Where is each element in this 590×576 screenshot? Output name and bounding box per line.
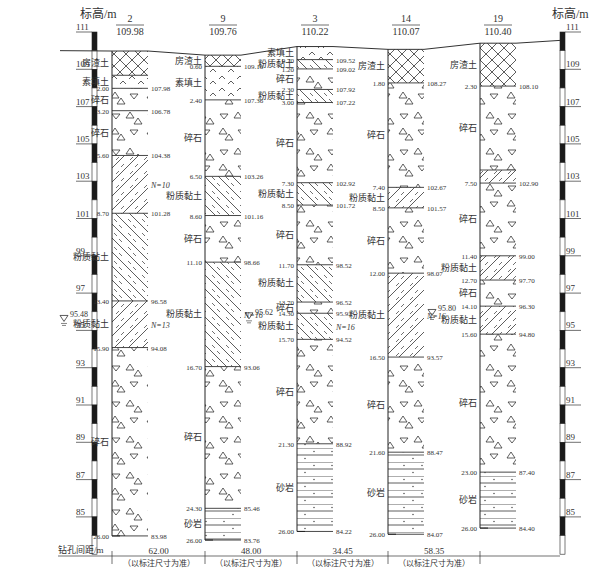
depth-label: 0.60	[190, 63, 203, 71]
layer-name: 粉质黏土	[258, 188, 294, 199]
elevation-scale-right: 标高/m1111091071051031019997959391898785	[552, 6, 589, 554]
tick-label: 105	[76, 134, 90, 144]
layer-silt-back	[205, 262, 241, 366]
depth-label: 2.40	[190, 97, 203, 105]
scale-segment-light	[560, 386, 565, 405]
tick-label: 111	[566, 22, 579, 32]
depth-label: 26.00	[369, 531, 385, 539]
depth-label: 15.90	[93, 345, 109, 353]
depth-label: 24.30	[186, 505, 202, 513]
spacing-value: 48.00	[241, 546, 262, 556]
scale-segment-light	[92, 386, 97, 405]
axis-title: 标高/m	[80, 6, 117, 21]
layer-gravel	[297, 302, 333, 313]
depth-label: 8.50	[373, 205, 386, 213]
elevation-label: 84.07	[427, 531, 443, 539]
borehole-id: 3	[313, 13, 318, 24]
layer-fill	[112, 75, 148, 88]
layer-name: 碎石	[184, 132, 202, 143]
spacing-value: 58.35	[424, 546, 445, 556]
depth-label: 1.20	[282, 66, 295, 74]
layer-silt-fwd	[480, 306, 516, 334]
borehole-id: 2	[128, 13, 133, 24]
elevation-label: 83.76	[244, 537, 260, 545]
elevation-label: 98.52	[336, 262, 352, 270]
tick-label: 105	[566, 134, 580, 144]
layer-gravel	[205, 367, 241, 509]
spacing-value: 34.45	[332, 546, 353, 556]
tick-label: 103	[566, 171, 580, 181]
elevation-label: 109.02	[336, 66, 356, 74]
tick-label: 91	[76, 395, 85, 405]
elevation-label: 85.46	[244, 505, 260, 513]
elevation-label: 107.22	[336, 99, 356, 107]
spacing-note: （以标注尺寸为准）	[215, 558, 287, 568]
elevation-label: 96.52	[336, 299, 352, 307]
layer-name: 碎石	[91, 127, 109, 138]
layer-name: 碎石	[276, 73, 294, 84]
borehole-9: 9109.76房渣土0.60109.16素填土2.40107.36碎石6.501…	[166, 13, 273, 545]
layer-gravel	[112, 111, 148, 156]
elevation-label: 84.40	[519, 525, 535, 533]
depth-label: 26.00	[93, 533, 109, 541]
spacing-value: 62.00	[148, 546, 169, 556]
elevation-label: 107.98	[151, 85, 171, 93]
depth-label: 26.00	[278, 528, 294, 536]
spacing-label: 钻孔间距/m	[58, 544, 104, 555]
scale-segment-dark	[92, 219, 97, 238]
section-canvas: 标高/m1111091071051031019997959391898785 标…	[0, 0, 590, 576]
layer-name: 碎石	[459, 397, 477, 408]
layer-crosshatch	[388, 49, 424, 83]
layer-name: 碎石	[276, 137, 294, 148]
scale-segment-light	[92, 163, 97, 182]
depth-label: 8.70	[97, 210, 110, 218]
elevation-label: 101.57	[427, 205, 447, 213]
depth-label: 2.30	[465, 83, 478, 91]
water-level-label: 95.48	[70, 310, 88, 319]
boreholes: 2109.98房渣土素填土2.00107.98碎石3.20106.78碎石5.6…	[60, 13, 539, 545]
layer-name: 房渣土	[450, 59, 477, 70]
depth-label: 6.50	[190, 173, 203, 181]
layer-gravel	[297, 205, 333, 265]
scale-segment-light	[560, 200, 565, 219]
layer-crosshatch	[205, 55, 241, 66]
elevation-label: 104.38	[151, 152, 171, 160]
layer-gravel	[480, 334, 516, 472]
elevation-label: 88.47	[427, 449, 443, 457]
depth-label: 21.60	[369, 449, 385, 457]
layer-name: 房渣土	[358, 60, 385, 71]
layer-name: 砂岩	[367, 487, 385, 498]
depth-label: 13.40	[93, 298, 109, 306]
depth-label: 7.30	[282, 180, 295, 188]
scale-segment-dark	[560, 368, 565, 387]
elevation-label: 83.98	[151, 533, 167, 541]
layer-silt-fwd	[112, 155, 148, 213]
layer-gravel	[112, 348, 148, 536]
layer-name: 粉质黏土	[349, 309, 385, 320]
depth-label: 11.10	[187, 259, 203, 267]
axis-title: 标高/m	[552, 6, 589, 21]
scale-segment-light	[560, 125, 565, 144]
tick-label: 93	[566, 358, 576, 368]
scale-segment-dark	[560, 293, 565, 312]
scale-segment-dark	[560, 405, 565, 424]
layer-gravel	[480, 183, 516, 256]
geological-section: 标高/m1111091071051031019997959391898785 标…	[0, 0, 590, 576]
scale-segment-light	[92, 461, 97, 480]
spt-note: N=16	[335, 323, 355, 332]
scale-segment-light	[560, 498, 565, 517]
layer-silt-back	[297, 183, 333, 205]
borehole-19: 19110.40房渣土2.30108.10碎石7.50102.90碎石11.40…	[441, 13, 539, 533]
elevation-label: 94.08	[151, 345, 167, 353]
layer-name: 碎石	[184, 233, 202, 244]
scale-segment-light	[560, 274, 565, 293]
tick-label: 89	[76, 432, 86, 442]
layer-sandstone	[205, 508, 241, 540]
layer-silt-back	[205, 176, 241, 215]
elevation-label: 109.52	[336, 57, 356, 65]
layer-name: 粉质黏土	[441, 262, 477, 273]
layer-name: 粉质黏土	[73, 251, 109, 262]
spacing-note: （以标注尺寸为准）	[398, 558, 470, 568]
scale-segment-light	[560, 349, 565, 368]
depth-label: 5.60	[97, 152, 110, 160]
